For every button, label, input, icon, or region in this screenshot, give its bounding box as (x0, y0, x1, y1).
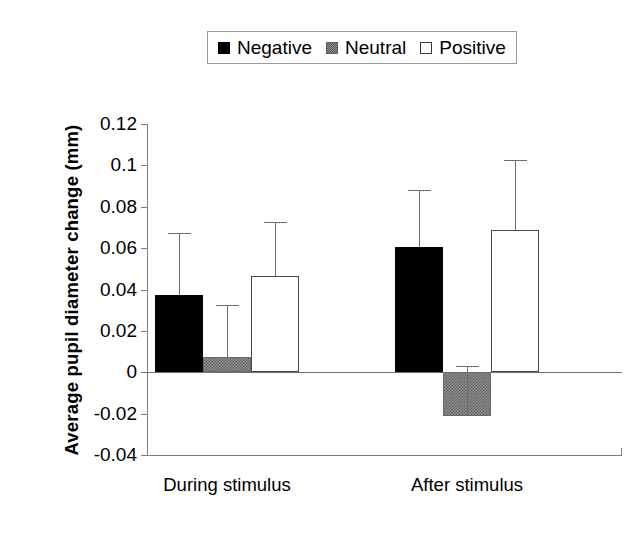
legend-label-negative: Negative (237, 37, 312, 59)
error-stem-neutral-group-1 (467, 366, 468, 416)
y-tick-label-7: -0.02 (57, 403, 137, 425)
y-tick-3 (141, 248, 147, 249)
plot-area: 0.120.10.080.060.040.020-0.02-0.04 (147, 124, 622, 455)
y-tick-label-1: 0.1 (57, 154, 137, 176)
y-axis-line (147, 124, 148, 455)
error-stem-neutral-group-0 (227, 305, 228, 357)
bar-negative-group-0 (155, 295, 203, 373)
y-tick-0 (141, 124, 147, 125)
legend-swatch-negative-icon (218, 42, 230, 54)
x-category-label-1: After stimulus (411, 474, 523, 496)
y-tick-label-8: -0.04 (57, 444, 137, 466)
y-tick-label-6: 0 (57, 361, 137, 383)
error-stem-positive-group-1 (515, 160, 516, 229)
error-stem-negative-group-1 (419, 190, 420, 247)
error-cap-neutral-group-0 (216, 305, 239, 306)
legend-entry-positive: Positive (420, 37, 506, 59)
y-tick-label-5: 0.02 (57, 320, 137, 342)
x-axis-right-cap (621, 448, 622, 456)
error-cap-negative-group-0 (168, 233, 191, 234)
legend-swatch-positive-icon (420, 42, 432, 54)
chart-figure: Negative Neutral Positive Average pupil … (0, 0, 643, 534)
bar-positive-group-1 (491, 230, 539, 373)
y-tick-1 (141, 165, 147, 166)
error-cap-neutral-group-1 (456, 366, 479, 367)
y-tick-label-3: 0.06 (57, 237, 137, 259)
bar-positive-group-0 (251, 276, 299, 372)
y-tick-2 (141, 207, 147, 208)
legend-entry-neutral: Neutral (326, 37, 406, 59)
y-tick-7 (141, 414, 147, 415)
error-stem-negative-group-0 (179, 233, 180, 295)
y-tick-label-2: 0.08 (57, 196, 137, 218)
y-tick-label-0: 0.12 (57, 113, 137, 135)
error-cap-positive-group-1 (504, 160, 527, 161)
bar-neutral-group-0 (203, 357, 251, 372)
chart-legend: Negative Neutral Positive (207, 31, 517, 64)
y-tick-8 (141, 455, 147, 456)
legend-label-positive: Positive (439, 37, 506, 59)
legend-swatch-neutral-icon (326, 42, 338, 54)
zero-baseline (141, 372, 622, 373)
y-tick-5 (141, 331, 147, 332)
y-tick-label-4: 0.04 (57, 279, 137, 301)
legend-label-neutral: Neutral (345, 37, 406, 59)
error-stem-positive-group-0 (275, 222, 276, 276)
error-cap-negative-group-1 (408, 190, 431, 191)
bar-negative-group-1 (395, 247, 443, 372)
error-cap-positive-group-0 (264, 222, 287, 223)
x-axis-bottom-line (147, 455, 622, 456)
legend-entry-negative: Negative (218, 37, 312, 59)
y-tick-4 (141, 290, 147, 291)
x-category-label-0: During stimulus (163, 474, 291, 496)
